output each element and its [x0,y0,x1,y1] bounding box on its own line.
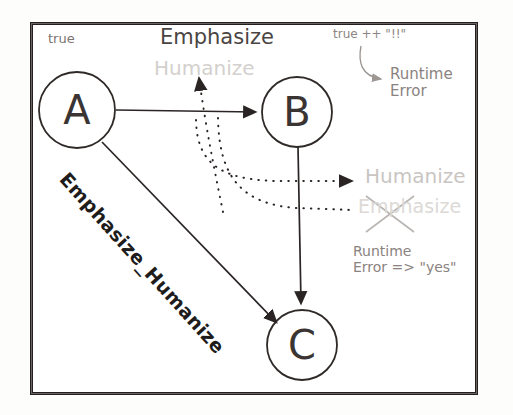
runtime-error-bottom-line2: Error => "yes" [353,259,457,275]
runtime-error-bottom-line1: Runtime [353,243,457,259]
label-humanize-right: Humanize [365,165,466,188]
runtime-error-top-line1: Runtime [390,66,453,83]
label-emphasize-crossed: Emphasize [358,196,461,218]
label-runtime-error-top: Runtime Error [390,66,453,101]
label-true-concat: true ++ "!!" [333,28,406,42]
label-humanize-ghost: Humanize [154,57,255,80]
label-true: true [48,32,75,47]
runtime-error-top-line2: Error [390,83,453,100]
node-label-b: B [277,92,317,132]
node-label-c: C [282,325,322,365]
label-runtime-error-bottom: Runtime Error => "yes" [353,243,457,275]
node-label-a: A [57,90,97,130]
label-emphasize-top: Emphasize [160,25,274,49]
